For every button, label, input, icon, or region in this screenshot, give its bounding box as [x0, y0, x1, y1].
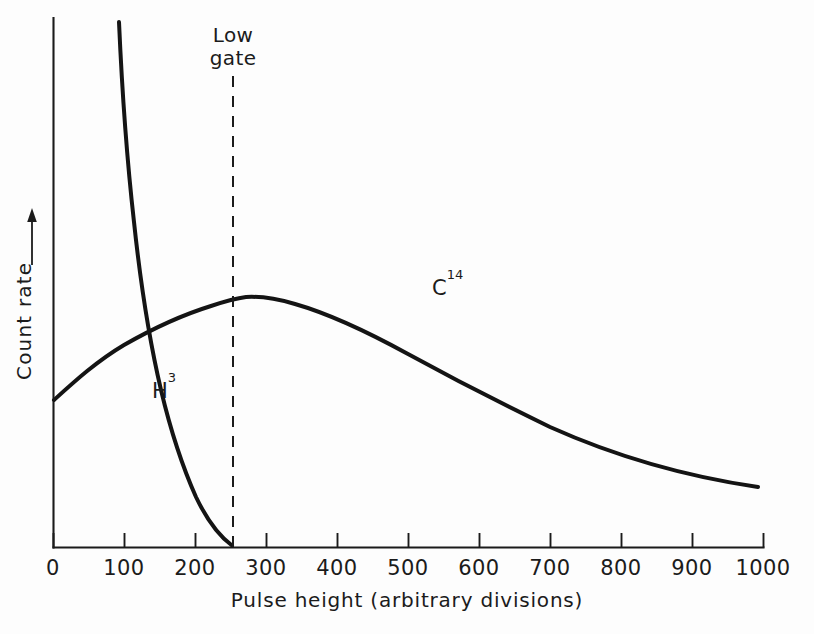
y-axis-arrow-icon: [27, 208, 37, 265]
xtick-label-600: 600: [458, 556, 499, 580]
xtick-label-700: 700: [529, 556, 570, 580]
series-label-c14: C14: [432, 275, 463, 300]
xtick-label-500: 500: [387, 556, 428, 580]
series-label-h3-superscript: 3: [168, 370, 176, 385]
xtick-label-300: 300: [245, 556, 286, 580]
low-gate-line-1: Low: [213, 23, 254, 47]
x-axis-ticks: [54, 533, 764, 548]
xtick-label-400: 400: [316, 556, 357, 580]
xtick-label-900: 900: [671, 556, 712, 580]
xtick-label-200: 200: [174, 556, 215, 580]
xtick-label-1000: 1000: [735, 556, 790, 580]
curve-h3: [119, 22, 232, 546]
xtick-label-800: 800: [600, 556, 641, 580]
xtick-label-0: 0: [46, 556, 60, 580]
low-gate-annotation: Low gate: [210, 24, 257, 69]
low-gate-line-2: gate: [210, 47, 257, 70]
series-label-c14-superscript: 14: [447, 267, 464, 282]
y-axis-title: Count rate: [12, 262, 36, 380]
series-label-h3: H3: [152, 378, 176, 403]
chart-canvas: [0, 0, 814, 634]
x-axis-title: Pulse height (arbitrary divisions): [231, 588, 583, 612]
figure-container: 0 100 200 300 400 500 600 700 800 900 10…: [0, 0, 814, 634]
series-label-c14-base: C: [432, 276, 447, 300]
xtick-label-100: 100: [103, 556, 144, 580]
series-label-h3-base: H: [152, 379, 168, 403]
